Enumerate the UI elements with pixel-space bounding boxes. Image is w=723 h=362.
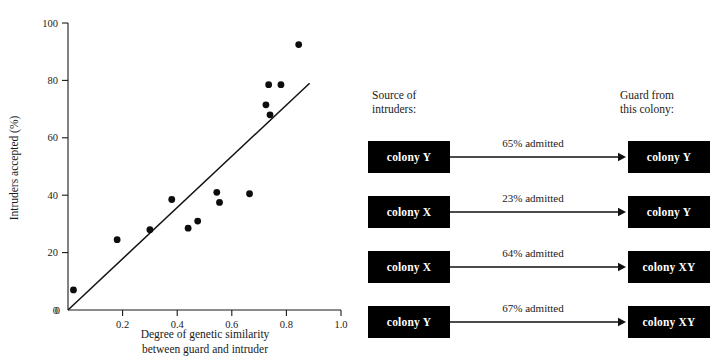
source-heading-line2: intruders: [372, 103, 416, 117]
guard-heading-line1: Guard from [620, 89, 674, 103]
source-heading: Source of intruders: [372, 89, 416, 116]
trend-line-group [68, 83, 310, 310]
figure-root: 020406080100 00.20.40.60.81.0 Intruders … [0, 0, 723, 362]
y-tick-label: 100 [42, 18, 58, 29]
flow-arrow-head [618, 318, 626, 326]
y-axis-ticks: 020406080100 [42, 18, 68, 316]
admitted-percentage-label: 23% admitted [458, 192, 608, 204]
source-colony-box: colony X [368, 251, 450, 283]
guard-colony-box: colony Y [628, 196, 710, 228]
x-axis-title-line2: between guard and intruder [142, 343, 268, 356]
data-point [168, 196, 175, 203]
plot-axes [68, 23, 341, 310]
guard-heading-line2: this colony: [620, 103, 674, 117]
data-point [194, 218, 201, 225]
data-point [70, 287, 77, 294]
admitted-percentage-label: 65% admitted [458, 137, 608, 149]
x-tick-label-zero: 0 [55, 305, 60, 316]
flow-diagram-panel: Source of intruders: Guard from this col… [360, 0, 723, 362]
x-axis-title-line1: Degree of genetic similarity [141, 328, 270, 341]
x-tick-label: 0.2 [116, 319, 129, 330]
y-tick-label: 20 [48, 247, 59, 258]
data-point [213, 189, 220, 196]
guard-heading: Guard from this colony: [620, 89, 674, 116]
admitted-percentage-label: 67% admitted [458, 302, 608, 314]
data-point [147, 226, 154, 233]
admitted-percentage-label: 64% admitted [458, 247, 608, 259]
data-point [216, 199, 223, 206]
y-tick-label: 40 [48, 190, 59, 201]
guard-colony-box: colony XY [628, 251, 710, 283]
x-tick-label: 0.8 [280, 319, 293, 330]
flow-arrow-head [618, 208, 626, 216]
data-point [185, 225, 192, 232]
source-heading-line1: Source of [372, 89, 416, 103]
y-tick-label: 80 [48, 75, 59, 86]
data-point [267, 111, 274, 118]
source-colony-box: colony X [368, 196, 450, 228]
x-tick-label: 1.0 [334, 319, 347, 330]
source-colony-box: colony Y [368, 306, 450, 338]
data-point [263, 101, 270, 108]
x-axis-ticks: 00.20.40.60.81.0 [55, 305, 348, 330]
trend-line [68, 83, 310, 310]
data-point [114, 236, 121, 243]
data-points-group [70, 41, 302, 293]
y-axis-title: Intruders accepted (%) [8, 115, 21, 220]
data-point [246, 190, 253, 197]
scatter-plot-panel: 020406080100 00.20.40.60.81.0 Intruders … [0, 0, 360, 362]
guard-colony-box: colony XY [628, 306, 710, 338]
flow-arrow-head [618, 263, 626, 271]
scatter-plot-svg: 020406080100 00.20.40.60.81.0 Intruders … [0, 0, 360, 362]
y-tick-label: 60 [48, 132, 59, 143]
data-point [278, 81, 285, 88]
guard-colony-box: colony Y [628, 141, 710, 173]
data-point [295, 41, 302, 48]
source-colony-box: colony Y [368, 141, 450, 173]
flow-arrow-head [618, 153, 626, 161]
data-point [265, 81, 272, 88]
